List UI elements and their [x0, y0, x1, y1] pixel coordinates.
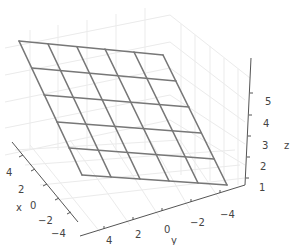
z-axis-title: z — [284, 140, 289, 151]
svg-text:4: 4 — [106, 235, 112, 245]
svg-text:2: 2 — [135, 229, 141, 240]
surface-3d-plot: 4 2 0 −2 −4 x 4 2 0 −2 −4 y 5 4 3 2 1 z — [0, 0, 295, 245]
svg-text:0: 0 — [30, 200, 36, 211]
svg-text:1: 1 — [259, 182, 265, 193]
svg-text:−2: −2 — [38, 215, 53, 226]
svg-text:−2: −2 — [190, 217, 205, 228]
svg-text:−4: −4 — [51, 228, 66, 239]
svg-text:3: 3 — [262, 140, 268, 151]
svg-text:−4: −4 — [220, 209, 235, 220]
svg-text:4: 4 — [6, 167, 12, 178]
svg-text:2: 2 — [260, 161, 266, 172]
svg-text:5: 5 — [265, 96, 271, 107]
y-axis-title: y — [171, 235, 177, 245]
z-tick-labels: 5 4 3 2 1 — [259, 96, 271, 193]
svg-text:2: 2 — [18, 184, 24, 195]
background-grid — [5, 8, 250, 232]
axes — [12, 58, 253, 236]
svg-text:4: 4 — [263, 118, 269, 129]
svg-text:0: 0 — [164, 224, 170, 235]
x-axis-title: x — [16, 202, 22, 213]
